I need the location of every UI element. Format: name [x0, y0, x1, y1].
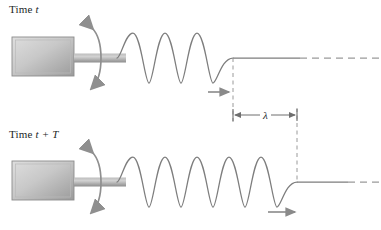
wavelength-label: λ — [262, 109, 268, 121]
panel-label-time-t-var: t — [36, 3, 39, 15]
panel-label-time-t: Time t — [9, 3, 39, 15]
panel-label-bottom-prefix: Time — [9, 128, 36, 140]
oscillator-box-bottom — [12, 161, 74, 200]
panel-label-time-t-plus-period: Time t + T — [9, 128, 59, 140]
wave-propagation-diagram: λ Time t Time t + T — [0, 0, 381, 230]
panel-bottom — [12, 152, 381, 212]
diagram-canvas: λ — [0, 0, 381, 230]
oscillator-rod-bottom — [74, 178, 126, 187]
panel-top — [12, 28, 381, 92]
panel-label-bottom-suffix: + T — [39, 128, 59, 140]
oscillator-rod-top — [74, 54, 126, 63]
panel-label-time-t-prefix: Time — [9, 3, 36, 15]
wave-curve-bottom — [117, 157, 297, 207]
oscillator-box-top — [12, 37, 74, 76]
wave-curve-top — [117, 33, 233, 83]
